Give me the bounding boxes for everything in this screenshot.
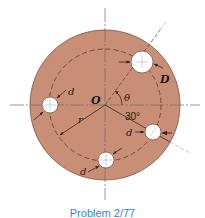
bottom-hole-diameter-label: d bbox=[80, 166, 86, 177]
right-hole-diameter-label: d bbox=[126, 127, 132, 138]
figure-caption: Problem 2/77 bbox=[0, 208, 205, 218]
theta-label: θ bbox=[124, 92, 130, 103]
radial-line-large-hole-ext bbox=[160, 22, 166, 30]
large-hole-diameter-label: D bbox=[159, 73, 170, 86]
disk-diagram: O θ 30° r D d d d bbox=[0, 0, 205, 218]
angle-30-label: 30° bbox=[125, 111, 140, 122]
radial-line-30deg-ext bbox=[170, 142, 190, 153]
left-hole-diameter-label: d bbox=[68, 86, 74, 97]
origin-label: O bbox=[91, 94, 101, 107]
